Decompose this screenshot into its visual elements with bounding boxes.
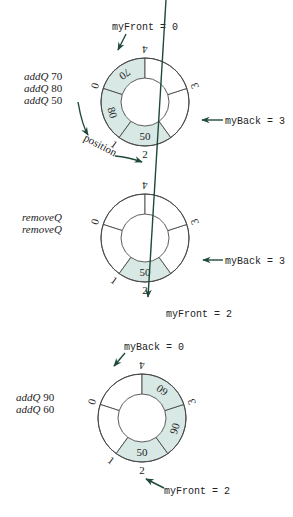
direction-label: position [82, 131, 119, 158]
circular-queue-diagram: addQ 70 addQ 80 addQ 50 70080150234 myFr… [0, 0, 293, 517]
operation-1: addQ 70 [24, 70, 63, 82]
slot-index: 0 [89, 81, 102, 90]
state-3: addQ 90 addQ 60 01502903604 myBack = 0 m… [16, 342, 230, 497]
state-2: removeQ removeQ 0150234 myBack = 3 myFro… [22, 0, 285, 320]
my-back-label: myBack = 0 [124, 342, 184, 353]
state-1: addQ 70 addQ 80 addQ 50 70080150234 myFr… [24, 22, 285, 162]
my-back-label: myBack = 3 [225, 116, 285, 127]
queue-ring: 01502903604 [86, 360, 198, 476]
my-back-arrow [114, 353, 125, 366]
my-front-arrow [118, 34, 126, 50]
my-back-label: myBack = 3 [225, 256, 285, 267]
my-front-arrow [146, 479, 164, 488]
my-front-arrow [148, 0, 166, 297]
my-front-label: myFront = 2 [164, 486, 230, 497]
operation-3: addQ 50 [24, 94, 63, 106]
slot-index: 4 [142, 180, 148, 192]
slot-index: 2 [142, 148, 148, 160]
slot-index: 0 [86, 397, 99, 406]
operation-2: addQ 60 [16, 403, 55, 415]
slot-value: 50 [137, 446, 149, 458]
my-front-label: myFront = 0 [112, 22, 178, 33]
slot-index: 4 [139, 360, 145, 372]
operation-2: addQ 80 [24, 82, 63, 94]
operation-2: removeQ [22, 223, 62, 235]
slot-index: 3 [185, 397, 198, 406]
slot-index: 3 [188, 217, 201, 226]
operation-1: removeQ [22, 211, 62, 223]
slot-index: 3 [188, 81, 201, 90]
operation-1: addQ 90 [16, 391, 55, 403]
slot-value: 50 [140, 130, 152, 142]
direction-arrow-lower [115, 156, 142, 162]
slot-index: 4 [142, 44, 148, 56]
queue-ring: 0150234 [89, 180, 201, 296]
my-front-label: myFront = 2 [166, 309, 232, 320]
slot-index: 0 [89, 217, 102, 226]
slot-index: 2 [139, 464, 145, 476]
direction-arrow-upper [78, 102, 88, 135]
slot-index: 1 [106, 454, 118, 467]
slot-index: 1 [109, 274, 121, 287]
slot-index: 2 [142, 284, 148, 296]
